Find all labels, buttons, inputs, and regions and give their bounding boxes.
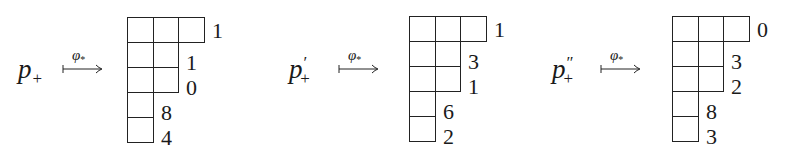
row-label: 8 [161,102,172,124]
diagram-cell [672,66,699,92]
row-label: 0 [186,77,197,99]
arrow-label: φ* [348,48,361,63]
source-label: p′+ [289,56,310,83]
arrow-label: φ* [610,48,623,63]
diagram-cell [698,16,724,42]
diagram-cell [460,16,487,42]
diagram-cell [127,117,154,143]
diagram-cell [178,17,205,43]
diagram-cell [409,16,436,42]
diagram-cell [127,92,154,118]
maps-to-arrow: φ* [62,48,102,78]
diagram-cell [672,116,699,142]
diagram-cell [409,91,436,117]
panel-p-plus: p+ φ* 11084 [0,0,262,151]
source-label: p″+ [552,56,573,83]
row-label: 1 [468,76,479,98]
source-subscript: + [33,69,43,88]
diagram-cell [435,41,461,67]
row-label: 8 [706,101,717,123]
row-label: 3 [468,51,479,73]
diagram-cell [153,67,179,93]
row-label: 4 [161,127,172,149]
diagram-cell [127,42,154,68]
mapsto-arrow-icon [338,64,380,74]
diagram-cell [409,116,436,142]
diagram-cell [127,67,154,93]
arrow-label: φ* [72,48,85,63]
panel-p-prime-plus: p′+ φ* 13162 [262,0,524,151]
diagram-cell [723,16,750,42]
row-label: 3 [706,126,717,148]
row-label: 1 [212,20,223,42]
diagram-cell [672,16,699,42]
row-label: 1 [186,52,197,74]
diagram-cell [153,17,179,43]
row-label: 0 [757,19,768,41]
row-label: 3 [731,51,742,73]
diagram-cell [127,17,154,43]
diagram-cell [672,91,699,117]
row-label: 1 [494,19,505,41]
maps-to-arrow: φ* [600,48,640,78]
diagram-cell [435,16,461,42]
diagram-cell [698,66,724,92]
diagram-cell [672,41,699,67]
diagram-cell [698,41,724,67]
row-label: 2 [443,126,454,148]
diagram-cell [435,66,461,92]
diagram-cell [409,41,436,67]
row-label: 6 [443,101,454,123]
source-base: p [18,54,32,84]
source-label: p+ [18,56,42,83]
mapsto-arrow-icon [62,64,104,74]
mapsto-arrow-icon [600,64,642,74]
source-subscript: + [300,69,310,88]
diagram-cell [153,42,179,68]
row-label: 2 [731,76,742,98]
panel-p-double-prime-plus: p″+ φ* 03283 [524,0,788,151]
source-subscript: + [564,69,574,88]
maps-to-arrow: φ* [338,48,378,78]
diagram-cell [409,66,436,92]
